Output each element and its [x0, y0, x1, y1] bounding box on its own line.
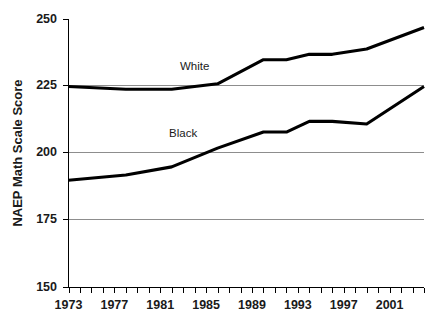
- x-tick-label-1993: 1993: [284, 298, 312, 312]
- series-line-white: [69, 28, 425, 90]
- y-tick-label-250: 250: [36, 12, 57, 26]
- gridlines: [68, 86, 424, 220]
- data-series-group: [69, 28, 425, 181]
- x-axis-tick-labels: 19731977198119851989199319972001: [55, 298, 404, 312]
- series-annotations: WhiteBlack: [169, 60, 209, 139]
- naep-math-line-chart: 250 225 200 175 150 19731977198119851989…: [0, 0, 442, 322]
- series-annotation-black: Black: [169, 127, 197, 139]
- chart-container: 250 225 200 175 150 19731977198119851989…: [0, 0, 442, 322]
- x-tick-label-1981: 1981: [146, 298, 174, 312]
- x-tick-label-2001: 2001: [376, 298, 404, 312]
- x-tick-label-1977: 1977: [100, 298, 128, 312]
- axes: [68, 19, 424, 288]
- x-tick-label-1997: 1997: [330, 298, 358, 312]
- x-tick-label-1985: 1985: [192, 298, 220, 312]
- y-tick-label-225: 225: [36, 78, 57, 92]
- y-tick-label-175: 175: [36, 212, 57, 226]
- x-tick-label-1973: 1973: [55, 298, 83, 312]
- y-axis-title: NAEP Math Scale Score: [10, 79, 25, 226]
- series-annotation-white: White: [180, 60, 209, 72]
- y-axis-tick-labels: 250 225 200 175 150: [36, 12, 57, 294]
- series-line-black: [69, 87, 425, 181]
- y-axis-ticks: [63, 20, 68, 288]
- y-tick-label-150: 150: [36, 280, 57, 294]
- x-tick-label-1989: 1989: [238, 298, 266, 312]
- y-tick-label-200: 200: [36, 145, 57, 159]
